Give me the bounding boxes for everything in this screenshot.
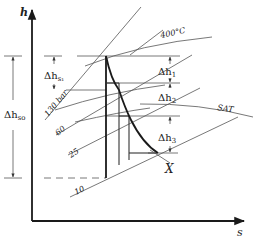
- sat-label: SAT: [217, 103, 235, 114]
- isobar-label-25: 25: [66, 147, 80, 161]
- expansion-curve: [106, 56, 158, 153]
- s-axis-label: s: [237, 226, 243, 238]
- dim-so-label: Δhso: [4, 109, 25, 122]
- hs-diagram: h s SAT X Δhso Δhs₁ Δh1: [0, 0, 257, 238]
- isobar-upper-segment: [130, 30, 163, 55]
- dim-1-label: Δh1: [158, 66, 176, 79]
- end-point-label: X: [164, 162, 174, 176]
- h-axis-label: h: [20, 6, 28, 19]
- dim-3-label: Δh3: [158, 132, 176, 145]
- isobar-label-130bar: 130 bar: [43, 87, 71, 118]
- dim-2-label: Δh2: [158, 92, 176, 105]
- isotherm-label-400c: 400°C: [159, 26, 187, 40]
- saturation-line: [140, 104, 253, 117]
- isotherm-curve-3: [75, 108, 150, 122]
- isobar-label-60: 60: [54, 124, 68, 137]
- isobar-10: [70, 117, 238, 197]
- isobar-label-10: 10: [73, 184, 86, 196]
- dim-s1-label: Δhs₁: [44, 70, 64, 83]
